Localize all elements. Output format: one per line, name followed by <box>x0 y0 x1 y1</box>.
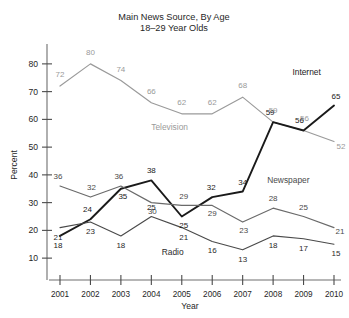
data-point-label: 72 <box>56 70 65 79</box>
data-point-label: 25 <box>179 221 188 230</box>
data-point-label: 66 <box>147 87 156 96</box>
line-chart: Main News Source, By Age 18–29 Year Olds… <box>0 0 349 318</box>
data-point-label: 28 <box>269 194 278 203</box>
data-point-label: 59 <box>266 108 275 117</box>
x-axis-label: Year <box>181 301 199 311</box>
data-point-label: 36 <box>114 172 123 181</box>
data-point-label: 35 <box>118 192 127 201</box>
data-point-label: 18 <box>116 241 125 250</box>
data-point-label: 18 <box>54 241 63 250</box>
x-tick-label: 2002 <box>81 290 100 299</box>
x-tick-label: 2004 <box>142 290 161 299</box>
data-point-label: 24 <box>83 205 92 214</box>
x-tick-label: 2007 <box>234 290 253 299</box>
data-point-label: 52 <box>337 142 346 151</box>
data-point-label: 34 <box>238 178 247 187</box>
series-annotation-internet: Internet <box>292 67 321 77</box>
y-tick-label: 80 <box>28 59 38 69</box>
data-point-label: 29 <box>179 192 188 201</box>
data-point-label: 29 <box>208 209 217 218</box>
chart-container: Main News Source, By Age 18–29 Year Olds… <box>0 0 349 318</box>
data-point-label: 21 <box>336 227 345 236</box>
data-point-label: 23 <box>86 227 95 236</box>
y-axis: 1020304050607080 <box>28 44 52 280</box>
data-point-label: 38 <box>147 166 156 175</box>
data-point-label: 80 <box>86 48 95 57</box>
data-point-label: 36 <box>54 172 63 181</box>
x-tick-label: 2005 <box>173 290 192 299</box>
data-point-label: 15 <box>332 249 341 258</box>
data-point-label: 32 <box>207 183 216 192</box>
x-tick-label: 2008 <box>264 290 283 299</box>
x-tick-label: 2001 <box>51 290 70 299</box>
series-line-radio <box>60 217 334 250</box>
data-point-label: 32 <box>87 183 96 192</box>
data-point-label: 13 <box>238 255 247 264</box>
data-point-label: 65 <box>332 92 341 101</box>
data-point-label: 16 <box>208 246 217 255</box>
data-series-group <box>60 64 334 250</box>
data-point-label: 25 <box>299 203 308 212</box>
y-axis-label: Percent <box>9 150 19 180</box>
x-tick-label: 2003 <box>112 290 131 299</box>
series-annotations-group: TelevisionInternetNewspaperRadio <box>151 67 321 257</box>
x-tick-label: 2009 <box>294 290 313 299</box>
data-point-label: 62 <box>208 98 217 107</box>
data-point-label: 56 <box>295 116 304 125</box>
x-axis: 2001200220032004200520062007200820092010 <box>49 275 344 299</box>
y-tick-label: 10 <box>28 253 38 263</box>
data-point-label: 74 <box>116 65 125 74</box>
y-tick-label: 70 <box>28 87 38 97</box>
data-point-label: 17 <box>299 244 308 253</box>
data-labels-group: 7280746662626859565218243538253234595665… <box>54 48 346 264</box>
y-tick-label: 40 <box>28 170 38 180</box>
data-point-label: 18 <box>269 241 278 250</box>
y-tick-label: 30 <box>28 198 38 208</box>
data-point-label: 23 <box>239 226 248 235</box>
x-tick-label: 2010 <box>325 290 344 299</box>
series-annotation-newspaper: Newspaper <box>267 175 310 185</box>
chart-subtitle: 18–29 Year Olds <box>140 23 208 33</box>
y-tick-label: 50 <box>28 142 38 152</box>
data-point-label: 68 <box>238 81 247 90</box>
data-point-label: 21 <box>179 233 188 242</box>
series-line-internet <box>60 106 334 236</box>
y-tick-label: 20 <box>28 225 38 235</box>
series-annotation-radio: Radio <box>162 247 184 257</box>
x-tick-label: 2006 <box>203 290 222 299</box>
y-tick-label: 60 <box>28 114 38 124</box>
series-annotation-television: Television <box>151 122 188 132</box>
chart-title: Main News Source, By Age <box>118 12 229 22</box>
data-point-label: 25 <box>147 203 156 212</box>
data-point-label: 62 <box>177 98 186 107</box>
data-point-label: 21 <box>54 233 63 242</box>
